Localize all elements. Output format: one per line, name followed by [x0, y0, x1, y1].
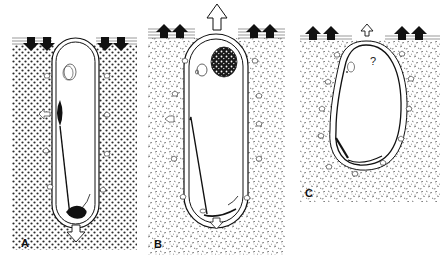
panel-label-c: C	[305, 187, 313, 199]
panel-b	[148, 4, 285, 255]
panel-c: ?	[300, 24, 440, 202]
panel-a	[12, 37, 137, 250]
egg-b	[184, 34, 248, 228]
question-mark: ?	[370, 55, 376, 67]
hollow-up-arrow-small	[361, 24, 373, 36]
egg-a	[52, 38, 99, 228]
panel-label-a: A	[21, 237, 29, 249]
egg-c: ?	[330, 41, 407, 170]
figure-canvas: ?	[0, 0, 448, 266]
panel-label-b: B	[154, 238, 162, 250]
hollow-up-arrow-large	[207, 4, 227, 30]
